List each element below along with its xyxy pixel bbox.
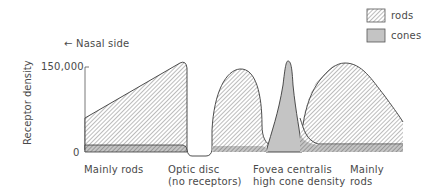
y-axis-label: Receptor density: [22, 60, 33, 145]
rods-area-temporal: [300, 63, 403, 152]
region-label-mainly-rods-temporal: Mainly: [350, 164, 384, 176]
legend-cones-label: cones: [391, 30, 421, 42]
cones-band-parafovea: [212, 146, 268, 152]
nasal-side-annotation: ← Nasal side: [64, 38, 129, 50]
region-label-fovea-sub: high cone density: [253, 176, 345, 188]
legend-rods-label: rods: [391, 10, 413, 22]
retina-receptor-chart: [0, 0, 423, 191]
region-label-optic-disc: Optic disc: [168, 164, 219, 176]
optic-disc-line: [187, 150, 212, 156]
legend-rods-swatch: [367, 9, 385, 22]
region-label-mainly-rods-temporal-sub: rods: [350, 176, 372, 188]
region-label-fovea: Fovea centralis: [253, 164, 332, 176]
region-label-optic-disc-sub: (no receptors): [168, 176, 242, 188]
nasal-side-label: Nasal side: [76, 38, 129, 49]
rods-area-parafovea: [212, 69, 270, 150]
rods-area-nasal: [85, 62, 187, 150]
legend-cones-swatch: [367, 29, 385, 42]
y-tick-max: 150,000: [41, 61, 84, 73]
arrow-left-icon: ←: [64, 38, 73, 49]
y-tick-min: 0: [73, 147, 80, 159]
cones-area-fovea: [266, 61, 302, 152]
region-label-mainly-rods-nasal: Mainly rods: [84, 164, 144, 176]
cones-band-nasal: [85, 145, 187, 152]
